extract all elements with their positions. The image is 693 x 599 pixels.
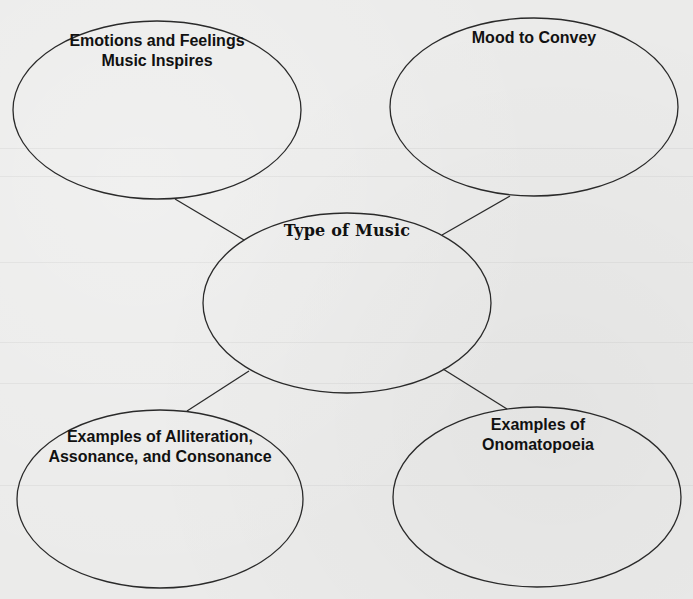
label-mood-to-convey: Mood to Convey xyxy=(472,28,596,48)
label-type-of-music: Type of Music xyxy=(284,221,410,241)
connector-mood-to-center xyxy=(442,196,510,235)
word-web-diagram xyxy=(0,0,693,599)
label-alliteration-assonance-consonance: Examples of Alliteration, Assonance, and… xyxy=(48,427,271,467)
label-line: Mood to Convey xyxy=(472,28,596,48)
label-line: Type of Music xyxy=(284,221,410,241)
connector-center-to-onomatopoeia xyxy=(443,369,507,409)
connector-center-to-alliteration xyxy=(187,371,249,411)
label-line: Examples of Alliteration, xyxy=(48,427,271,447)
connector-emotions-to-center xyxy=(175,199,244,240)
label-line: Examples of xyxy=(482,415,594,435)
label-line: Music Inspires xyxy=(69,51,244,71)
label-line: Assonance, and Consonance xyxy=(48,447,271,467)
label-line: Onomatopoeia xyxy=(482,435,594,455)
label-onomatopoeia: Examples of Onomatopoeia xyxy=(482,415,594,455)
label-line: Emotions and Feelings xyxy=(69,31,244,51)
label-emotions-and-feelings: Emotions and Feelings Music Inspires xyxy=(69,31,244,71)
